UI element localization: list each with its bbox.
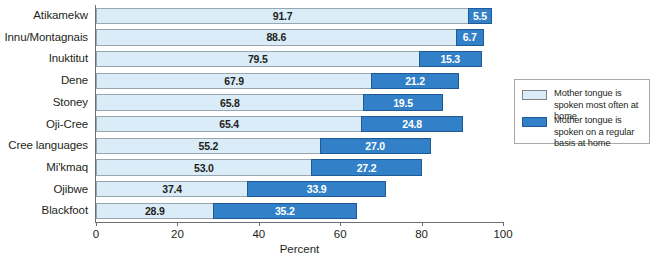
stacked-bar: 91.75.5 (96, 8, 492, 24)
bar-row: 65.424.8 (96, 114, 503, 136)
bar-row: 79.515.3 (96, 48, 503, 70)
category-label: Atikamekw (33, 5, 88, 27)
chart-legend: Mother tongue is spoken most often at ho… (514, 79, 650, 144)
bar-segment-most-often: 37.4 (96, 181, 248, 197)
x-axis-title: Percent (96, 243, 503, 255)
stacked-bar: 79.515.3 (96, 51, 482, 67)
category-label: Stoney (53, 92, 88, 114)
bar-value-label: 88.6 (266, 31, 286, 43)
bar-value-label: 19.5 (393, 97, 413, 109)
plot-area: 91.75.588.66.779.515.367.921.265.819.565… (96, 5, 503, 222)
x-axis-tick (259, 222, 260, 226)
x-axis-tick-label: 60 (320, 228, 360, 240)
bar-value-label: 67.9 (224, 75, 244, 87)
bar-segment-regular-basis: 5.5 (468, 8, 491, 24)
stacked-bar-chart: AtikamekwInnu/MontagnaisInuktitutDeneSto… (0, 0, 657, 279)
bar-row: 65.819.5 (96, 92, 503, 114)
category-axis-labels: AtikamekwInnu/MontagnaisInuktitutDeneSto… (0, 5, 92, 222)
bar-segment-most-often: 28.9 (96, 203, 214, 219)
stacked-bar: 67.921.2 (96, 73, 459, 89)
stacked-bar: 65.424.8 (96, 116, 463, 132)
bar-row: 55.227.0 (96, 135, 503, 157)
legend-swatch-light-icon (522, 90, 547, 100)
bar-row: 91.75.5 (96, 5, 503, 27)
bar-segment-regular-basis: 35.2 (213, 203, 357, 219)
x-axis-tick (177, 222, 178, 226)
x-axis-tick-label: 40 (239, 228, 279, 240)
category-label: Mi'kmaq (46, 157, 88, 179)
bar-segment-most-often: 65.8 (96, 94, 364, 110)
bar-segment-most-often: 53.0 (96, 159, 312, 175)
bar-value-label: 6.7 (463, 31, 477, 43)
stacked-bar: 28.935.2 (96, 203, 357, 219)
bar-value-label: 79.5 (248, 53, 268, 65)
bar-value-label: 35.2 (275, 205, 295, 217)
x-axis-tick-label: 20 (157, 228, 197, 240)
bar-row: 88.66.7 (96, 27, 503, 49)
bar-segment-regular-basis: 27.2 (311, 159, 423, 175)
stacked-bar: 37.433.9 (96, 181, 386, 197)
stacked-bar: 53.027.2 (96, 159, 422, 175)
bar-segment-most-often: 67.9 (96, 73, 372, 89)
bar-row: 37.433.9 (96, 179, 503, 201)
bar-segment-regular-basis: 24.8 (361, 116, 463, 132)
legend-label-regular-basis: Mother tongue is spoken on a regular bas… (554, 115, 649, 150)
bar-segment-most-often: 88.6 (96, 29, 457, 45)
bar-segment-most-often: 55.2 (96, 138, 321, 154)
bar-segment-regular-basis: 19.5 (363, 94, 443, 110)
category-label: Innu/Montagnais (4, 27, 88, 49)
bar-segment-most-often: 65.4 (96, 116, 362, 132)
bar-segment-regular-basis: 27.0 (320, 138, 431, 154)
bar-segment-most-often: 91.7 (96, 8, 469, 24)
x-axis-tick (422, 222, 423, 226)
bar-value-label: 65.4 (219, 118, 239, 130)
bar-value-label: 21.2 (405, 75, 425, 87)
category-axis-line (95, 222, 503, 223)
category-label: Ojibwe (53, 179, 88, 201)
bar-segment-regular-basis: 6.7 (456, 29, 484, 45)
bar-value-label: 37.4 (162, 183, 182, 195)
x-axis-tick (503, 222, 504, 226)
bar-value-label: 5.5 (473, 10, 487, 22)
x-axis-tick (340, 222, 341, 226)
x-axis-tick-label: 80 (402, 228, 442, 240)
legend-item-regular-basis: Mother tongue is spoken on a regular bas… (522, 115, 649, 150)
x-axis-tick-label: 0 (76, 228, 116, 240)
bar-value-label: 55.2 (199, 140, 219, 152)
category-label: Dene (61, 70, 88, 92)
bar-segment-most-often: 79.5 (96, 51, 420, 67)
bar-value-label: 65.8 (220, 97, 240, 109)
bar-value-label: 91.7 (273, 10, 293, 22)
bar-row: 53.027.2 (96, 157, 503, 179)
bar-value-label: 27.2 (357, 162, 377, 174)
category-label: Cree languages (8, 135, 88, 157)
bar-value-label: 53.0 (194, 162, 214, 174)
bar-row: 67.921.2 (96, 70, 503, 92)
bar-value-label: 24.8 (402, 118, 422, 130)
stacked-bar: 55.227.0 (96, 138, 431, 154)
category-label: Blackfoot (42, 200, 88, 222)
bar-segment-regular-basis: 33.9 (247, 181, 386, 197)
bar-segment-regular-basis: 15.3 (419, 51, 482, 67)
category-label: Inuktitut (49, 48, 88, 70)
stacked-bar: 65.819.5 (96, 94, 443, 110)
stacked-bar: 88.66.7 (96, 29, 484, 45)
bar-row: 28.935.2 (96, 200, 503, 222)
bar-value-label: 27.0 (365, 140, 385, 152)
bar-segment-regular-basis: 21.2 (371, 73, 458, 89)
x-axis-tick-label: 100 (483, 228, 523, 240)
category-label: Oji-Cree (46, 114, 88, 136)
x-axis-tick (96, 222, 97, 226)
bar-value-label: 15.3 (440, 53, 460, 65)
bar-value-label: 28.9 (145, 205, 165, 217)
legend-swatch-dark-icon (522, 117, 547, 127)
bar-value-label: 33.9 (307, 183, 327, 195)
